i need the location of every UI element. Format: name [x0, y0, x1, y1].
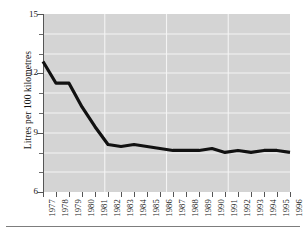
y-tick-label-15: 15: [14, 9, 38, 19]
x-tick-label-1981: 1981: [99, 199, 109, 217]
x-tick-label-1987: 1987: [177, 199, 187, 217]
x-tick-mark-1991: [225, 192, 226, 197]
x-tick-mark-1986: [160, 192, 161, 197]
x-tick-label-1992: 1992: [242, 199, 252, 217]
x-tick-mark-1988: [186, 192, 187, 197]
x-tick-mark-1989: [199, 192, 200, 197]
x-tick-label-1990: 1990: [216, 199, 226, 217]
x-tick-label-1993: 1993: [255, 199, 265, 217]
y-tick-label-6: 6: [14, 186, 38, 196]
x-tick-mark-1977: [43, 192, 44, 197]
plot-gridlines: [44, 14, 290, 192]
footer-divider: [6, 226, 300, 227]
y-tick-label-12: 12: [14, 67, 38, 77]
x-tick-label-1985: 1985: [151, 199, 161, 217]
x-tick-label-1977: 1977: [47, 199, 57, 217]
x-tick-mark-1994: [264, 192, 265, 197]
x-tick-label-1988: 1988: [190, 199, 200, 217]
x-tick-label-1980: 1980: [86, 199, 96, 217]
x-tick-mark-1978: [56, 192, 57, 197]
x-tick-mark-1983: [121, 192, 122, 197]
y-axis-title: Litres per 100 kilometres: [23, 20, 33, 180]
x-tick-label-1982: 1982: [112, 199, 122, 217]
x-tick-label-1978: 1978: [60, 199, 70, 217]
x-tick-mark-1982: [108, 192, 109, 197]
x-tick-mark-1993: [251, 192, 252, 197]
x-tick-mark-1996: [290, 192, 291, 197]
x-tick-mark-1979: [69, 192, 70, 197]
x-tick-label-1996: 1996: [294, 199, 304, 217]
chart-figure: Litres per 100 kilometres 15 12 9 6: [0, 0, 306, 232]
x-tick-mark-1981: [95, 192, 96, 197]
x-tick-mark-1980: [82, 192, 83, 197]
x-tick-mark-1995: [277, 192, 278, 197]
x-tick-label-1991: 1991: [229, 199, 239, 217]
x-tick-label-1994: 1994: [268, 199, 278, 217]
x-tick-mark-1990: [212, 192, 213, 197]
x-tick-label-1986: 1986: [164, 199, 174, 217]
x-tick-mark-1984: [134, 192, 135, 197]
x-tick-mark-1992: [238, 192, 239, 197]
x-tick-mark-1985: [147, 192, 148, 197]
x-tick-label-1989: 1989: [203, 199, 213, 217]
plot-area: [43, 14, 290, 192]
x-tick-mark-1987: [173, 192, 174, 197]
x-tick-label-1983: 1983: [125, 199, 135, 217]
y-tick-label-9: 9: [14, 127, 38, 137]
x-tick-label-1995: 1995: [281, 199, 291, 217]
x-tick-label-1979: 1979: [73, 199, 83, 217]
x-tick-label-1984: 1984: [138, 199, 148, 217]
